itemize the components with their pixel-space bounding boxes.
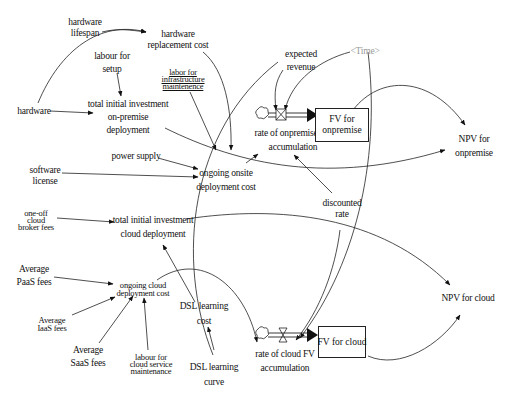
var-time-shadow: <Time> — [350, 46, 379, 57]
var-npv-cloud: NPV for cloud — [441, 293, 494, 304]
flow-arrow-cloud — [307, 328, 318, 342]
link-fvcloud-npv — [368, 315, 460, 360]
link-oneoff-totalcloud — [57, 218, 114, 222]
link-discount-rate — [294, 155, 332, 193]
link-saas-cloudcost — [99, 296, 133, 343]
cloud-source-icon-cloud — [256, 327, 269, 339]
valve-icon-cloud — [279, 328, 287, 342]
link-iaas-cloudcost — [72, 297, 115, 315]
link-time-cloudvalve — [300, 52, 371, 338]
var-discounted-rate: discounted rate — [322, 198, 361, 220]
cloud-source-icon-onpremise — [256, 107, 269, 119]
var-average-paas-fees: Average PaaS fees — [17, 263, 52, 289]
var-average-iaas-fees: Average IaaS fees — [37, 316, 66, 332]
var-expected-revenue: expected revenue — [285, 48, 317, 74]
var-dsl-learning-curve: DSL learning curve — [190, 360, 239, 390]
link-revenue-valve — [275, 70, 283, 110]
link-power-onsite — [158, 158, 198, 169]
link-discount-cloudvalve — [296, 230, 340, 340]
stock-fv-onpremise: FV for onpremise — [315, 108, 369, 142]
var-power-supply: power supply — [111, 151, 160, 162]
link-dslcurve-dslcost — [208, 327, 214, 350]
link-setup-totalonprem — [117, 73, 121, 96]
var-labour-cloud-service-maintenance: labour for cloud service maintenance — [130, 354, 172, 375]
diagram-canvas — [0, 0, 509, 400]
link-paas-cloudcost — [54, 277, 113, 284]
flow-pipe-onpremise — [268, 113, 313, 117]
flow-rate-cloud-fv: rate of cloud FV accumulation — [255, 347, 314, 375]
link-hardware-totalonprem — [50, 111, 93, 113]
valve-icon-onpremise — [276, 109, 286, 120]
link-license-onsite — [62, 173, 198, 177]
var-hardware-replacement-cost: hardware replacement cost — [148, 29, 209, 51]
var-npv-onpremise: NPV for onpremise — [455, 132, 493, 160]
var-total-initial-investment-cloud: total initial investment cloud deploymen… — [113, 213, 194, 241]
var-dsl-learning-cost: DSL learning cost — [180, 299, 229, 329]
var-total-initial-investment-onpremise: total initial investment on-premise depl… — [88, 98, 169, 137]
var-software-license: software license — [29, 165, 60, 187]
var-ongoing-cloud-cost: ongoing cloud deployment cost — [117, 281, 170, 297]
link-labourcloud-cloudcost — [144, 298, 148, 350]
var-average-saas-fees: Average SaaS fees — [71, 344, 106, 370]
link-fvonprem-npv — [353, 85, 465, 125]
var-labor-infrastructure-maintenance: labor for infrastructure maintenence — [162, 69, 205, 90]
link-totalcloud-npv — [186, 214, 450, 285]
var-labour-for-setup: labour for setup — [94, 50, 130, 76]
link-replacement-onsite — [203, 52, 231, 150]
flow-pipe-cloud — [268, 333, 313, 337]
var-ongoing-onsite-cost: ongoing onsite deployment cost — [196, 166, 256, 194]
var-hardware-lifespan: hardware lifespan — [68, 17, 102, 39]
var-one-off-cloud-broker-fees: one-off cloud broker fees — [18, 210, 54, 231]
var-hardware: hardware — [17, 106, 51, 117]
stock-fv-cloud: FV for cloud — [318, 326, 366, 358]
